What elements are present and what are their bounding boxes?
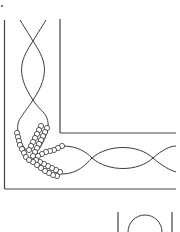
bottom-circle-element — [118, 212, 172, 232]
beaded-fringe-strands — [14, 123, 64, 178]
horizontal-twisted-strands — [62, 146, 176, 174]
corner-mark — [1, 5, 3, 7]
bead-strand-1 — [14, 130, 28, 159]
partial-circle — [128, 215, 162, 232]
corner-border-figure — [0, 0, 180, 232]
